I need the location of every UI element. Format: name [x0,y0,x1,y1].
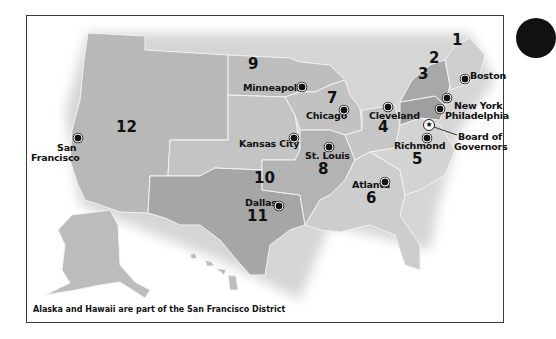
city-label-minneapolis: Minneapolis [243,83,305,93]
district-number-11: 11 [247,209,268,224]
city-marker-richmond[interactable] [423,134,432,143]
edge-circle-decoration [516,18,556,58]
district-number-2: 2 [429,51,439,66]
footnote: Alaska and Hawaii are part of the San Fr… [33,305,285,314]
city-marker-boston[interactable] [461,75,470,84]
district-number-3: 3 [418,67,428,82]
district-number-1: 1 [452,33,462,48]
star-icon[interactable]: ★ [423,119,435,131]
city-label-dallas: Dallas [245,198,277,208]
city-label-cleveland: Cleveland [369,111,420,121]
city-marker-kansas-city[interactable] [290,134,299,143]
city-label-san-francisco-line2: Francisco [31,153,80,163]
district-number-4: 4 [378,120,388,135]
city-label-richmond: Richmond [394,141,445,151]
city-marker-philadelphia[interactable] [436,105,445,114]
city-label-philadelphia: Philadelphia [445,111,509,121]
city-marker-cleveland[interactable] [384,103,393,112]
district-number-5: 5 [412,152,422,167]
city-label-boston: Boston [470,71,506,81]
city-marker-dallas[interactable] [275,202,284,211]
district-number-8: 8 [318,162,328,177]
district-number-7: 7 [327,91,337,106]
district-number-6: 6 [366,191,376,206]
district-number-9: 9 [248,57,258,72]
city-marker-san-francisco[interactable] [74,134,83,143]
city-marker-chicago[interactable] [340,106,349,115]
city-label-st-louis: St. Louis [305,151,350,161]
city-marker-st-louis[interactable] [325,143,334,152]
city-marker-minneapolis[interactable] [298,83,307,92]
district-number-10: 10 [254,171,275,186]
district-number-12: 12 [116,120,137,135]
city-marker-atlanta[interactable] [381,178,390,187]
board-label-line2: Governors [454,142,507,152]
city-marker-new-york[interactable] [443,94,452,103]
